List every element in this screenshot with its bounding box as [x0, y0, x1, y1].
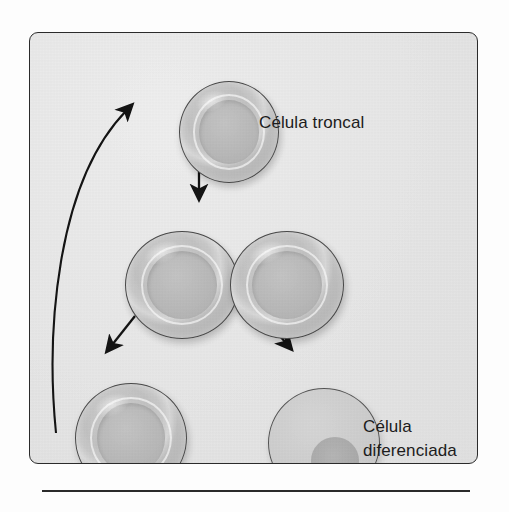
stem-cell-bottom — [75, 383, 187, 464]
bottom-rule-divider — [42, 490, 470, 492]
differentiated-cell-label: Céluladiferenciada — [363, 415, 457, 463]
dividing-cell-left — [125, 231, 239, 339]
daughter-left-arrow — [112, 316, 135, 345]
dividing-cell-right — [230, 231, 344, 339]
nucleus — [311, 437, 359, 464]
differentiated-label-line-2: diferenciada — [363, 441, 457, 460]
stem-cell-diagram-figure: Célula troncal Céluladiferenciada — [0, 0, 509, 512]
diagram-panel: Célula troncal Céluladiferenciada — [29, 32, 478, 464]
differentiated-label-line-1: Célula — [363, 417, 412, 436]
stem-cell-label: Célula troncal — [259, 111, 364, 135]
